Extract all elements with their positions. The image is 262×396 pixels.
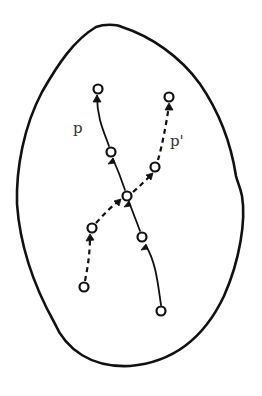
path-p-segment	[146, 246, 161, 305]
path-p-segment	[113, 159, 125, 190]
arrowhead-icon	[93, 95, 101, 102]
node-p-start	[157, 307, 166, 316]
node-p-2	[138, 233, 147, 242]
nodes	[80, 85, 174, 316]
path-p-prime-segment	[85, 236, 90, 281]
arrowhead-icon	[108, 158, 115, 164]
node-p-end	[94, 85, 103, 94]
arrowhead-icon	[165, 103, 173, 110]
path-p-segment	[97, 96, 109, 146]
node-p-4	[107, 148, 116, 157]
arrowhead-icon	[86, 234, 94, 241]
diagram-canvas: p p'	[0, 0, 262, 396]
path-p-prime-segment	[158, 105, 169, 160]
label-p-prime: p'	[170, 132, 184, 150]
node-p-prime-2	[88, 224, 97, 233]
arrowhead-icon	[141, 244, 148, 250]
node-crossing	[123, 192, 132, 201]
node-p-prime-4	[151, 163, 160, 172]
node-p-prime-end	[165, 93, 174, 102]
node-p-prime-start	[80, 283, 89, 292]
arrowhead-icon	[114, 199, 121, 206]
arrowhead-icon	[124, 201, 131, 207]
label-p: p	[73, 119, 83, 137]
